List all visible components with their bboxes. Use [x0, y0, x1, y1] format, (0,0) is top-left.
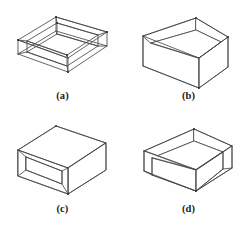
figure-panel-c: (c): [0, 113, 125, 226]
figure-panel-d: (d): [126, 113, 251, 226]
figure-label-a: (a): [0, 90, 125, 102]
open-box-diagram-b: [126, 0, 251, 92]
figure-panel-a: (a): [0, 0, 125, 113]
figure-panel: (a): [0, 0, 251, 227]
figure-label-c: (c): [0, 203, 125, 215]
wireframe-box-diagram-a: [0, 0, 125, 92]
tunnel-box-diagram-c: [0, 113, 125, 205]
figure-panel-b: (b): [126, 0, 251, 113]
open-tray-diagram-d: [126, 113, 251, 205]
figure-label-d: (d): [126, 203, 251, 215]
figure-label-b: (b): [126, 90, 251, 102]
